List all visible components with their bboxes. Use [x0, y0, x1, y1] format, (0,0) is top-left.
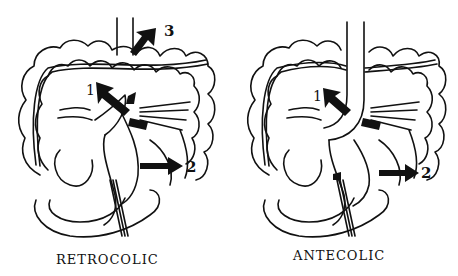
caption-antecolic: ANTECOLIC	[293, 248, 385, 263]
antecolic-panel: 1 2 ANTECOLIC	[229, 0, 458, 276]
label-2: 2	[186, 158, 196, 176]
retrocolic-illustration	[0, 0, 229, 276]
retrocolic-panel: 1 2 3 RETROCOLIC	[0, 0, 229, 276]
label-1: 1	[313, 88, 322, 104]
caption-retrocolic: RETROCOLIC	[56, 252, 159, 267]
antecolic-illustration	[229, 0, 458, 276]
label-3: 3	[164, 22, 174, 40]
label-1: 1	[86, 82, 95, 98]
label-2: 2	[421, 164, 431, 182]
